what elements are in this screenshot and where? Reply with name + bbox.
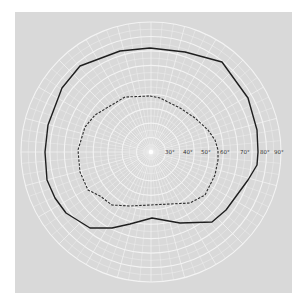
tick-label-60: 60° [220, 149, 230, 155]
tick-label-50: 50° [201, 149, 211, 155]
tick-label-40: 40° [183, 149, 193, 155]
fixation-point [149, 150, 153, 154]
tick-label-70: 70° [240, 149, 250, 155]
tick-label-80: 80° [260, 149, 270, 155]
perimetry-chart: 30° 40° 50° 60° 70° 80° 90° [0, 0, 305, 308]
radial-tick-labels: 30° 40° 50° 60° 70° 80° 90° [165, 149, 284, 155]
tick-label-90: 90° [274, 149, 284, 155]
tick-label-30: 30° [165, 149, 175, 155]
